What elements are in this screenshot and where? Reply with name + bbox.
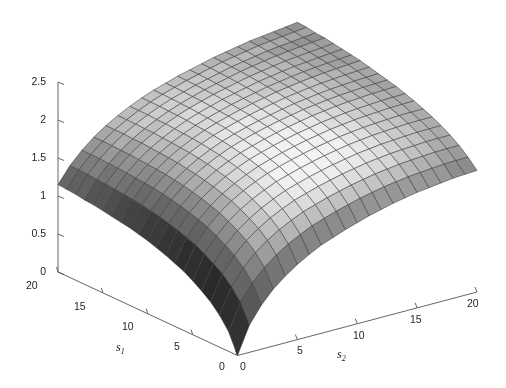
- s1-axis-label: s1: [116, 340, 125, 356]
- s1-tick-0: 0: [219, 360, 225, 372]
- z-tick-2.5: 2.5: [20, 75, 46, 87]
- s1-tick-10: 10: [122, 320, 134, 332]
- s1-tick-5: 5: [174, 340, 180, 352]
- s2-tick-15: 15: [410, 313, 422, 325]
- z-tick-1.5: 1.5: [20, 151, 46, 163]
- s2-axis-label-sub: 2: [342, 354, 346, 363]
- s2-tick-20: 20: [467, 297, 479, 309]
- s2-tick-5: 5: [297, 344, 303, 356]
- s2-tick-0: 0: [240, 360, 246, 372]
- s2-tick-10: 10: [353, 329, 365, 341]
- s2-axis-label: s2: [337, 347, 346, 363]
- s1-axis-label-sub: 1: [121, 347, 125, 356]
- z-tick-0.5: 0.5: [20, 227, 46, 239]
- surface-plot-canvas: [0, 0, 506, 388]
- z-tick-2: 2: [20, 113, 46, 125]
- surface-plot-figure: 2.5 2 1.5 1 0.5 0 20 15 10 5 0 0 5 10 15…: [0, 0, 506, 388]
- z-tick-1: 1: [20, 189, 46, 201]
- z-tick-0: 0: [20, 265, 46, 277]
- s1-tick-15: 15: [74, 300, 86, 312]
- s1-tick-20: 20: [26, 279, 38, 291]
